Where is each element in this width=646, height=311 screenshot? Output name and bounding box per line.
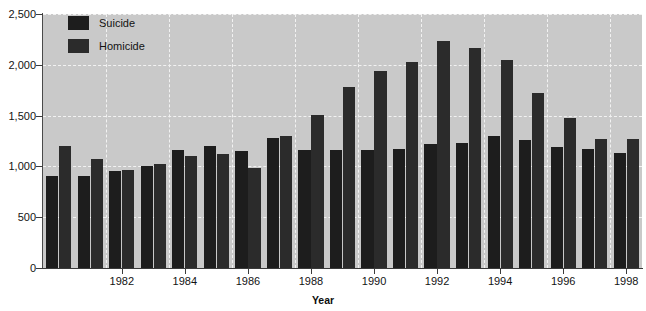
y-tick-label: 1,000 — [0, 161, 36, 172]
x-tick-mark — [185, 269, 186, 274]
chart-legend: Suicide Homicide — [68, 16, 145, 62]
y-tick-label: 0 — [0, 263, 36, 274]
y-tick-mark — [36, 14, 43, 15]
x-tick-label: 1990 — [362, 276, 386, 287]
x-tick-label: 1998 — [614, 276, 638, 287]
legend-label-homicide: Homicide — [99, 41, 145, 52]
y-tick-mark — [36, 268, 43, 269]
y-tick-label: 500 — [0, 212, 36, 223]
legend-label-suicide: Suicide — [99, 18, 135, 29]
x-tick-mark — [626, 269, 627, 274]
y-tick-label: 2,500 — [0, 9, 36, 20]
y-tick-mark — [36, 166, 43, 167]
y-tick-label: 1,500 — [0, 111, 36, 122]
y-tick-label: 2,000 — [0, 60, 36, 71]
x-axis-title: Year — [0, 294, 646, 306]
legend-item-homicide: Homicide — [68, 39, 145, 53]
bar-chart: 05001,0001,5002,0002,500 198219841986198… — [0, 0, 646, 311]
legend-swatch-homicide — [68, 39, 89, 53]
x-tick-label: 1982 — [110, 276, 134, 287]
x-tick-label: 1994 — [488, 276, 512, 287]
x-tick-mark — [500, 269, 501, 274]
x-tick-label: 1988 — [299, 276, 323, 287]
legend-item-suicide: Suicide — [68, 16, 145, 30]
x-tick-mark — [311, 269, 312, 274]
legend-swatch-suicide — [68, 16, 89, 30]
x-tick-mark — [374, 269, 375, 274]
x-tick-mark — [437, 269, 438, 274]
y-tick-mark — [36, 116, 43, 117]
x-tick-label: 1996 — [551, 276, 575, 287]
x-tick-label: 1984 — [173, 276, 197, 287]
x-tick-mark — [563, 269, 564, 274]
y-tick-mark — [36, 217, 43, 218]
x-tick-label: 1986 — [236, 276, 260, 287]
x-tick-label: 1992 — [425, 276, 449, 287]
x-tick-mark — [122, 269, 123, 274]
y-tick-mark — [36, 65, 43, 66]
x-tick-mark — [248, 269, 249, 274]
